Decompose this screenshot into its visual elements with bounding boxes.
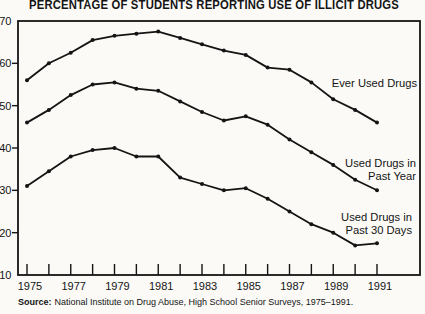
data-point-ever-used-drugs: [353, 108, 357, 112]
data-point-used-drugs-in-past-30-days: [309, 222, 313, 226]
series-line-used-drugs-in-past-30-days: [27, 148, 377, 245]
x-axis-label: 1991: [368, 280, 392, 292]
data-point-ever-used-drugs: [47, 61, 51, 65]
data-point-ever-used-drugs: [309, 80, 313, 84]
source-note: Source:National Institute on Drug Abuse,…: [18, 297, 353, 307]
data-point-ever-used-drugs: [178, 36, 182, 40]
data-point-used-drugs-in-past-year: [288, 138, 292, 142]
data-point-ever-used-drugs: [375, 121, 379, 125]
data-point-used-drugs-in-past-30-days: [91, 148, 95, 152]
data-point-used-drugs-in-past-year: [156, 89, 160, 93]
y-axis-label: 60: [0, 57, 12, 69]
x-axis-label: 1981: [149, 280, 173, 292]
data-point-used-drugs-in-past-year: [309, 150, 313, 154]
data-point-used-drugs-in-past-30-days: [353, 243, 357, 247]
data-point-used-drugs-in-past-year: [200, 110, 204, 114]
data-point-used-drugs-in-past-30-days: [47, 169, 51, 173]
data-point-used-drugs-in-past-year: [113, 80, 117, 84]
data-point-used-drugs-in-past-year: [47, 108, 51, 112]
data-point-used-drugs-in-past-30-days: [113, 146, 117, 150]
data-point-ever-used-drugs: [266, 66, 270, 70]
data-point-ever-used-drugs: [134, 32, 138, 36]
data-point-used-drugs-in-past-year: [69, 93, 73, 97]
y-axis-label: 30: [0, 184, 12, 196]
x-axis-label: 1985: [237, 280, 261, 292]
plot-frame: [18, 21, 420, 275]
data-point-ever-used-drugs: [91, 38, 95, 42]
y-axis-label: 70: [0, 15, 12, 27]
series-label-used-drugs-in-past-30-days: Used Drugs in: [341, 211, 412, 223]
data-point-used-drugs-in-past-30-days: [244, 186, 248, 190]
data-point-ever-used-drugs: [331, 97, 335, 101]
x-axis-label: 1977: [62, 280, 86, 292]
data-point-used-drugs-in-past-year: [222, 119, 226, 123]
data-point-ever-used-drugs: [156, 30, 160, 34]
data-point-used-drugs-in-past-30-days: [200, 182, 204, 186]
x-axis-label: 1989: [324, 280, 348, 292]
data-point-used-drugs-in-past-year: [375, 188, 379, 192]
data-point-used-drugs-in-past-year: [266, 123, 270, 127]
data-point-ever-used-drugs: [69, 51, 73, 55]
series-label-used-drugs-in-past-year: Used Drugs in: [345, 157, 416, 169]
y-axis-label: 20: [0, 227, 12, 239]
plot-area: 1020304050607019751977197919811983198519…: [0, 15, 420, 292]
y-axis-label: 40: [0, 142, 12, 154]
y-axis-label: 10: [0, 269, 12, 281]
x-axis-label: 1983: [193, 280, 217, 292]
data-point-used-drugs-in-past-year: [178, 99, 182, 103]
data-point-used-drugs-in-past-30-days: [25, 184, 29, 188]
y-axis-label: 50: [0, 100, 12, 112]
x-axis-label: 1987: [280, 280, 304, 292]
series-label-used-drugs-in-past-year: Past Year: [368, 170, 416, 182]
data-point-used-drugs-in-past-year: [134, 87, 138, 91]
series-line-used-drugs-in-past-year: [27, 82, 377, 190]
data-point-ever-used-drugs: [222, 49, 226, 53]
drug-use-line-chart: PERCENTAGE OF STUDENTS REPORTING USE OF …: [0, 0, 425, 314]
data-point-ever-used-drugs: [113, 34, 117, 38]
source-text: National Institute on Drug Abuse, High S…: [55, 297, 354, 307]
data-point-ever-used-drugs: [288, 68, 292, 72]
series-label-ever-used-drugs: Ever Used Drugs: [332, 77, 418, 89]
series-label-used-drugs-in-past-30-days: Past 30 Days: [345, 224, 412, 236]
data-point-used-drugs-in-past-30-days: [331, 231, 335, 235]
data-point-used-drugs-in-past-year: [91, 83, 95, 87]
data-point-used-drugs-in-past-30-days: [375, 241, 379, 245]
data-point-ever-used-drugs: [244, 53, 248, 57]
data-point-used-drugs-in-past-year: [331, 163, 335, 167]
data-point-used-drugs-in-past-30-days: [156, 155, 160, 159]
data-point-used-drugs-in-past-year: [244, 114, 248, 118]
chart-svg: PERCENTAGE OF STUDENTS REPORTING USE OF …: [0, 0, 425, 314]
data-point-used-drugs-in-past-30-days: [134, 155, 138, 159]
chart-title: PERCENTAGE OF STUDENTS REPORTING USE OF …: [29, 0, 399, 12]
data-point-used-drugs-in-past-30-days: [178, 176, 182, 180]
x-axis-label: 1975: [18, 280, 42, 292]
data-point-used-drugs-in-past-30-days: [69, 155, 73, 159]
data-point-ever-used-drugs: [200, 42, 204, 46]
data-point-used-drugs-in-past-year: [353, 178, 357, 182]
data-point-used-drugs-in-past-30-days: [288, 210, 292, 214]
data-point-used-drugs-in-past-30-days: [222, 188, 226, 192]
data-point-used-drugs-in-past-year: [25, 121, 29, 125]
x-axis-label: 1979: [105, 280, 129, 292]
source-label: Source:: [18, 297, 52, 307]
data-point-ever-used-drugs: [25, 78, 29, 82]
data-point-used-drugs-in-past-30-days: [266, 197, 270, 201]
